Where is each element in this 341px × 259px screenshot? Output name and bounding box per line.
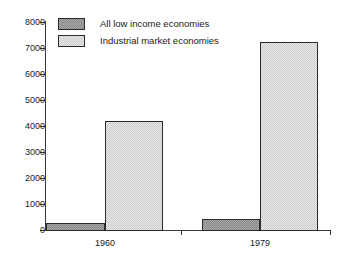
x-axis-end-tick: [330, 231, 331, 235]
y-axis-line: [45, 21, 46, 231]
dark-gray-swatch-icon: [58, 18, 85, 30]
y-tick-label: 4000: [9, 122, 45, 131]
legend-label: Industrial market economies: [100, 35, 219, 46]
y-tick-label: 6000: [9, 70, 45, 79]
y-axis-tick-1000: 1000: [0, 204, 45, 205]
y-axis-tick-5000: 5000: [0, 100, 45, 101]
y-axis-tick-7000: 7000: [0, 48, 45, 49]
bar-1979-all-low-income-economies: [202, 219, 260, 231]
bar-chart-figure: 8000 7000 6000 5000 4000 3000 2000 1000: [0, 0, 341, 259]
y-axis-tick-0: 0: [0, 230, 45, 231]
y-tick-label: 5000: [9, 96, 45, 105]
y-tick-label: 7000: [9, 44, 45, 53]
y-axis-tick-8000: 8000: [0, 22, 45, 23]
legend-item-industrial-market-economies: Industrial market economies: [58, 34, 219, 47]
bar-1979-industrial-market-economies: [260, 42, 318, 231]
x-axis-label-1960: 1960: [75, 238, 135, 248]
x-axis-label-1979: 1979: [230, 238, 290, 248]
bar-1960-all-low-income-economies: [46, 223, 105, 231]
y-tick-label: 3000: [9, 148, 45, 157]
y-tick-label: 8000: [9, 18, 45, 27]
y-axis-tick-4000: 4000: [0, 126, 45, 127]
legend-item-all-low-income-economies: All low income economies: [58, 17, 219, 30]
legend-label: All low income economies: [100, 18, 209, 29]
y-axis-tick-2000: 2000: [0, 178, 45, 179]
y-tick-label: 0: [9, 226, 45, 235]
chart-legend: All low income economies Industrial mark…: [58, 17, 219, 51]
y-axis-tick-6000: 6000: [0, 74, 45, 75]
bar-1960-industrial-market-economies: [105, 121, 163, 231]
y-tick-label: 1000: [9, 200, 45, 209]
y-axis-tick-3000: 3000: [0, 152, 45, 153]
light-gray-swatch-icon: [58, 35, 85, 47]
x-axis-group-separator-tick: [181, 231, 182, 235]
y-tick-label: 2000: [9, 174, 45, 183]
